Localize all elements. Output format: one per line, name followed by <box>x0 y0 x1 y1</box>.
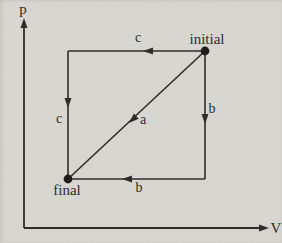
process-a-label: a <box>140 112 147 127</box>
process-c-top-label: c <box>135 30 141 45</box>
diagram-canvas: p V initial final c c a b b <box>0 0 282 243</box>
initial-state-label: initial <box>190 31 225 47</box>
volume-axis-label: V <box>271 220 282 236</box>
initial-state-dot <box>201 47 210 56</box>
process-b-right-label: b <box>209 101 216 116</box>
pv-diagram: p V initial final c c a b b <box>0 0 282 243</box>
process-c-left-label: c <box>56 111 62 126</box>
pressure-axis-label: p <box>19 1 27 17</box>
process-b-bottom-label: b <box>136 180 143 195</box>
final-state-label: final <box>53 182 81 198</box>
